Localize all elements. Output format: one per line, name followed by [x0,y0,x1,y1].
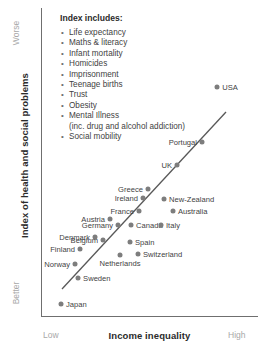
x-axis-low-label: Low [43,330,59,340]
legend-item: •Maths & literacy [60,38,210,48]
data-point-label: Belgium [71,235,98,244]
y-axis-top-label: Worse [11,8,21,58]
legend-item: •Obesity [60,101,210,111]
data-point[interactable] [78,247,83,252]
legend-item-label: Homicides [69,59,107,68]
data-point[interactable] [135,252,140,257]
data-point-label: Norway [44,260,70,269]
data-point[interactable] [145,187,150,192]
data-point[interactable] [175,163,180,168]
legend-item: •Homicides [60,59,210,69]
legend-item: •Life expectancy [60,28,210,38]
y-axis-bottom-label: Better [11,268,21,318]
bullet-icon: • [61,70,64,80]
legend-item: •(inc. drug and alcohol addiction) [60,122,210,132]
data-point-label: Spain [135,238,154,247]
data-point-label: Germany [82,221,113,230]
data-point[interactable] [116,223,121,228]
legend-item-label: Maths & literacy [69,38,127,47]
legend-item-label: Infant mortality [69,49,123,58]
legend-item-label: Mental Illness [69,111,119,120]
legend-item-list: •Life expectancy•Maths & literacy•Infant… [60,28,210,142]
data-point-label: Finland [50,245,75,254]
data-point[interactable] [127,240,132,245]
bullet-icon: • [61,38,64,48]
data-point-label: Netherlands [100,259,141,268]
scatter-chart: Index of health and social problems Inco… [0,0,266,348]
bullet-icon: • [61,80,64,90]
bullet-icon: • [61,49,64,59]
bullet-icon: • [61,59,64,69]
legend-item-label: Social mobility [69,132,121,141]
data-point-label: Italy [166,221,180,230]
data-point-label: Australia [178,207,208,216]
data-point[interactable] [129,223,134,228]
legend-item-label: Trust [69,90,87,99]
y-axis-title: Index of health and social problems [19,56,30,256]
data-point-label: UK [161,161,172,170]
legend-item: •Imprisonment [60,70,210,80]
x-axis-title: Income inequality [41,330,258,341]
data-point-label: Switzerland [143,250,182,259]
x-axis-line [41,316,258,317]
legend-item-label: Obesity [69,101,97,110]
bullet-icon: • [61,28,64,38]
data-point[interactable] [76,276,81,281]
data-point[interactable] [58,302,63,307]
legend-item: •Trust [60,90,210,100]
legend-item: •Teenage births [60,80,210,90]
legend-item-label: Life expectancy [69,28,126,37]
data-point[interactable] [215,85,220,90]
data-point[interactable] [73,262,78,267]
legend-item-label: Teenage births [69,80,123,89]
data-point[interactable] [140,196,145,201]
y-axis-line [41,8,42,317]
legend-item-label: (inc. drug and alcohol addiction) [69,122,185,131]
data-point-label: New-Zealand [169,195,214,204]
data-point-label: Ireland [115,194,138,203]
data-point-label: Portugal [169,137,197,146]
legend-item-label: Imprisonment [69,70,119,79]
bullet-icon: • [61,90,64,100]
legend-item: •Infant mortality [60,49,210,59]
data-point[interactable] [162,197,167,202]
data-point[interactable] [101,237,106,242]
data-point[interactable] [170,209,175,214]
legend: Index includes: •Life expectancy•Maths &… [60,13,210,142]
data-point[interactable] [117,253,122,258]
data-point-label: France [110,206,134,215]
legend-item: •Mental Illness [60,111,210,121]
data-point-label: Japan [66,300,87,309]
data-point-label: Sweden [83,274,110,283]
legend-title: Index includes: [60,13,210,23]
bullet-icon: • [61,111,64,121]
bullet-icon: • [61,132,64,142]
data-point[interactable] [200,139,205,144]
data-point-label: USA [222,83,238,92]
data-point[interactable] [159,223,164,228]
data-point-label: Greece [118,185,143,194]
data-point[interactable] [137,208,142,213]
x-axis-high-label: High [228,330,245,340]
bullet-icon: • [61,101,64,111]
